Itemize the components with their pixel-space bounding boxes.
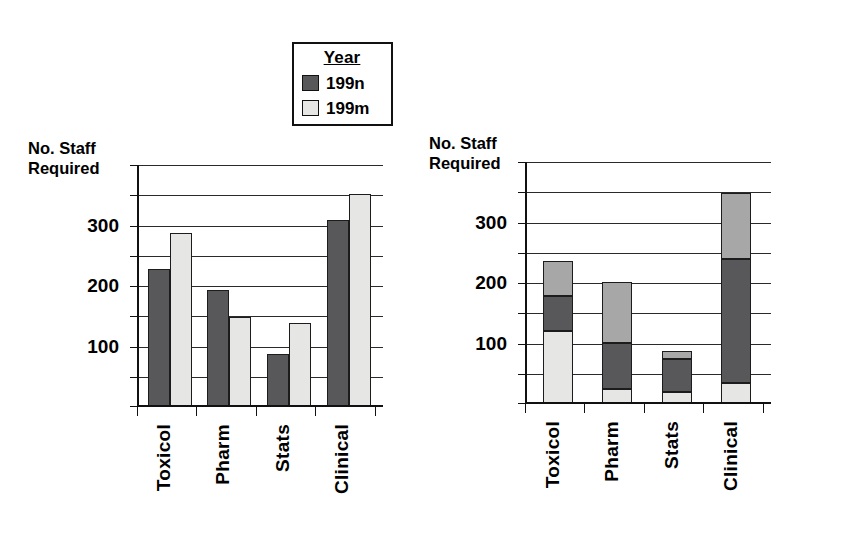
bar-199n-toxicol [148,269,170,407]
segment-high-stats [662,351,692,359]
legend-title-year: Year [302,49,382,67]
legend-item-199n: 199n [302,75,382,92]
x-category-clinical: Clinical [331,424,353,494]
stacked-bar-toxicol [543,261,573,404]
xtick-4 [375,407,376,416]
bar-199m-stats [289,323,311,407]
segment-low-clinical [721,383,751,404]
x-category-r-stats: Stats [661,421,683,469]
gridline-400 [137,165,383,166]
ytick-label-200: 200 [87,275,119,297]
chart-panel-priority: No. Staff Required Priority High Medium … [430,0,861,546]
segment-medium-pharm [602,343,632,389]
x-category-toxicol: Toxicol [153,424,175,491]
x-axis-line-left [137,405,383,407]
figure-root: No. Staff Required Year 199n 199m [0,0,861,546]
segment-high-toxicol [543,261,573,296]
legend-label-199m: 199m [326,100,369,117]
xtick-r-2 [644,404,645,413]
bar-199n-pharm [207,290,229,407]
chart-panel-year: No. Staff Required Year 199n 199m [0,0,430,546]
bar-199n-clinical [327,220,349,407]
legend-year: Year 199n 199m [292,42,393,126]
ytick-label-r-300: 300 [475,212,507,234]
x-category-r-toxicol: Toxicol [542,421,564,488]
ytick-label-r-200: 200 [475,272,507,294]
xtick-3 [315,407,316,416]
y-axis-title-right: No. Staff Required [429,133,501,173]
x-category-stats: Stats [272,424,294,472]
segment-high-clinical [721,193,751,259]
legend-swatch-199n [302,75,319,91]
x-category-r-pharm: Pharm [601,421,623,482]
x-category-r-clinical: Clinical [720,421,742,491]
segment-medium-toxicol [543,296,573,331]
bar-199m-pharm [229,317,251,407]
legend-swatch-199m [302,100,319,116]
xtick-1 [196,407,197,416]
xtick-r-0 [525,404,526,413]
gridline-350 [137,195,383,196]
gridline-r-400 [525,162,771,163]
ytick-label-r-100: 100 [475,333,507,355]
y-axis-line-right [525,162,527,404]
ytick-label-100: 100 [87,336,119,358]
segment-low-toxicol [543,331,573,404]
plot-area-priority: 300 200 100 [525,162,763,404]
stacked-bar-pharm [602,282,632,404]
xtick-r-3 [703,404,704,413]
xtick-r-1 [584,404,585,413]
xtick-0 [137,407,138,416]
legend-item-199m: 199m [302,100,382,117]
bar-199n-stats [267,354,289,407]
segment-high-pharm [602,282,632,343]
bar-199m-toxicol [170,233,192,407]
stacked-bar-clinical [721,193,751,404]
bar-199m-clinical [349,194,371,407]
x-category-pharm: Pharm [212,424,234,485]
y-axis-title-left: No. Staff Required [28,138,100,178]
legend-label-199n: 199n [326,75,365,92]
y-axis-line-left [137,165,139,407]
stacked-bar-stats [662,351,692,404]
xtick-r-4 [763,404,764,413]
x-axis-line-right [525,402,771,404]
segment-medium-stats [662,359,692,392]
segment-medium-clinical [721,259,751,383]
plot-area-year: 300 200 100 [137,165,375,407]
ytick-label-300: 300 [87,215,119,237]
xtick-2 [256,407,257,416]
